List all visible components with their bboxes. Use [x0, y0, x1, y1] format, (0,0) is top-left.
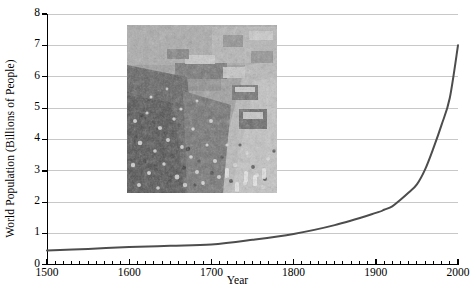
- y-tick-label-5: 5: [30, 100, 40, 112]
- y-ticks: [42, 14, 47, 265]
- y-tick-label-4: 4: [30, 131, 40, 143]
- y-tick-label-8: 8: [30, 6, 40, 18]
- y-tick-label-2: 2: [30, 194, 40, 206]
- y-tick-label-1: 1: [30, 225, 40, 237]
- y-tick-label-3: 3: [30, 163, 40, 175]
- y-tick-label-7: 7: [30, 37, 40, 49]
- x-ticks: [47, 259, 458, 265]
- y-axis-title: World Population (Billions of People): [0, 0, 20, 297]
- x-axis-title: Year: [0, 274, 475, 286]
- y-tick-label-6: 6: [30, 69, 40, 81]
- world-population-chart: 012345678150016001700180019002000 World …: [0, 0, 475, 297]
- crowded-street-photograph: [127, 25, 277, 193]
